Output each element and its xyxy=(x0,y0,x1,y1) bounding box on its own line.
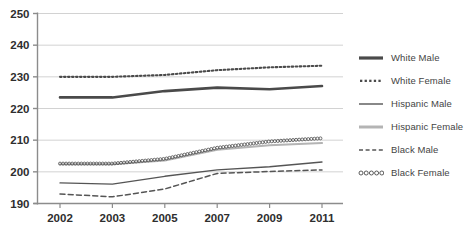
legend-label: Hispanic Female xyxy=(391,121,463,132)
y-tick-label: 240 xyxy=(10,39,29,51)
gridline-group xyxy=(38,14,344,204)
series-marker xyxy=(240,143,243,146)
legend-item-black-female[interactable]: Black Female xyxy=(358,161,472,184)
series-line-white-male xyxy=(60,86,322,97)
x-tick-label: 2005 xyxy=(152,212,178,224)
series-black-female xyxy=(59,137,322,165)
data-series-group xyxy=(59,66,323,197)
series-marker xyxy=(249,142,252,145)
series-marker xyxy=(319,137,322,140)
solid-thick-swatch-icon xyxy=(358,52,384,64)
series-marker xyxy=(231,144,234,147)
x-tick-label: 2002 xyxy=(47,212,73,224)
series-marker xyxy=(252,142,255,145)
series-marker xyxy=(237,144,240,147)
legend-label: Black Female xyxy=(391,167,450,178)
series-line-white-female xyxy=(60,66,322,77)
y-tick-label: 190 xyxy=(10,198,29,210)
solid-light-swatch-icon xyxy=(358,121,384,133)
legend-item-hispanic-male[interactable]: Hispanic Male xyxy=(358,92,472,115)
series-line-hispanic-female xyxy=(60,143,322,164)
chart-legend: White Male White Female Hispanic Male Hi… xyxy=(358,46,472,184)
series-marker xyxy=(243,143,246,146)
series-marker xyxy=(316,137,319,140)
solid-thin-swatch-icon xyxy=(358,98,384,110)
y-axis-tick-labels: 250240230220210200190 xyxy=(10,8,29,210)
series-marker xyxy=(298,138,301,141)
legend-item-white-male[interactable]: White Male xyxy=(358,46,472,69)
legend-label: White Female xyxy=(391,75,451,86)
x-tick-label: 2003 xyxy=(100,212,126,224)
legend-item-hispanic-female[interactable]: Hispanic Female xyxy=(358,115,472,138)
circles-swatch-icon xyxy=(358,167,384,179)
legend-label: White Male xyxy=(391,52,440,63)
dotted-swatch-icon xyxy=(358,75,384,87)
y-tick-label: 250 xyxy=(10,8,29,20)
legend-label: Hispanic Male xyxy=(391,98,452,109)
legend-item-white-female[interactable]: White Female xyxy=(358,69,472,92)
series-marker xyxy=(225,145,228,148)
series-marker xyxy=(255,142,258,145)
series-marker xyxy=(261,141,264,144)
series-marker xyxy=(246,143,249,146)
y-tick-label: 200 xyxy=(10,166,29,178)
x-tick-label: 2007 xyxy=(204,212,230,224)
series-marker xyxy=(258,141,261,144)
y-tick-label: 220 xyxy=(10,103,29,115)
x-tick-label: 2009 xyxy=(257,212,283,224)
legend-item-black-male[interactable]: Black Male xyxy=(358,138,472,161)
series-marker xyxy=(264,140,267,143)
line-chart: 250240230220210200190 200220032005200720… xyxy=(0,0,472,228)
x-tick-label: 2011 xyxy=(310,212,336,224)
dashed-swatch-icon xyxy=(358,144,384,156)
x-axis-tick-labels: 200220032005200720092011 xyxy=(47,212,335,224)
series-marker xyxy=(234,144,237,147)
y-tick-label: 210 xyxy=(10,134,29,146)
legend-label: Black Male xyxy=(391,144,438,155)
series-marker xyxy=(228,145,231,148)
y-tick-label: 230 xyxy=(10,71,29,83)
